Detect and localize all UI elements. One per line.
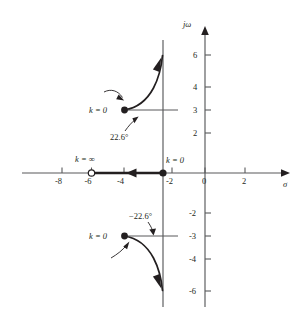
pole-label-upper: k = 0 (89, 106, 107, 115)
imag-tick-label-neg4: -4 (189, 255, 196, 264)
pole-marker-upper (121, 107, 128, 114)
imag-tick-label-neg2: -2 (189, 209, 196, 218)
angle-label-upper: 22.6° (110, 133, 128, 142)
imag-tick-label-2: 2 (193, 129, 197, 138)
zero-label: k = ∞ (75, 155, 95, 164)
imag-tick-label-3: 3 (193, 106, 197, 115)
real-tick-label-neg6: -6 (85, 177, 92, 186)
imag-tick-label-6: 6 (193, 51, 197, 60)
real-axis-label: σ (283, 180, 287, 189)
pole-label-lower: k = 0 (89, 232, 107, 241)
imaginary-axis-label: jω (183, 20, 191, 29)
real-tick-label-neg4: -4 (117, 177, 124, 186)
angle-label-lower: −22.6° (129, 212, 152, 221)
root-locus-figure: jω σ -8 -6 -4 -2 0 2 6 4 3 2 -2 -3 -4 -6… (0, 0, 301, 336)
lower-angle-leader-arrowhead (149, 228, 156, 235)
imag-tick-label-4: 4 (193, 83, 197, 92)
real-tick-label-2: 2 (242, 177, 246, 186)
root-locus-canvas (0, 0, 301, 336)
pole-label-real: k = 0 (166, 156, 184, 165)
real-tick-label-neg2: -2 (166, 177, 173, 186)
imag-tick-label-neg6: -6 (189, 287, 196, 296)
imag-tick-label-neg3: -3 (189, 232, 196, 241)
upper-branch-locus (125, 56, 163, 111)
upper-departure-leader-arrowhead (116, 95, 124, 101)
real-axis-locus-arrow (126, 169, 137, 178)
real-tick-label-0: 0 (202, 177, 206, 186)
lower-branch-locus (125, 236, 163, 291)
upper-angle-leader-arrowhead (132, 117, 138, 124)
real-axis-arrowhead (281, 169, 290, 177)
real-tick-label-neg8: -8 (55, 177, 62, 186)
imaginary-axis-arrowhead (201, 26, 209, 35)
pole-marker-lower (121, 233, 128, 240)
